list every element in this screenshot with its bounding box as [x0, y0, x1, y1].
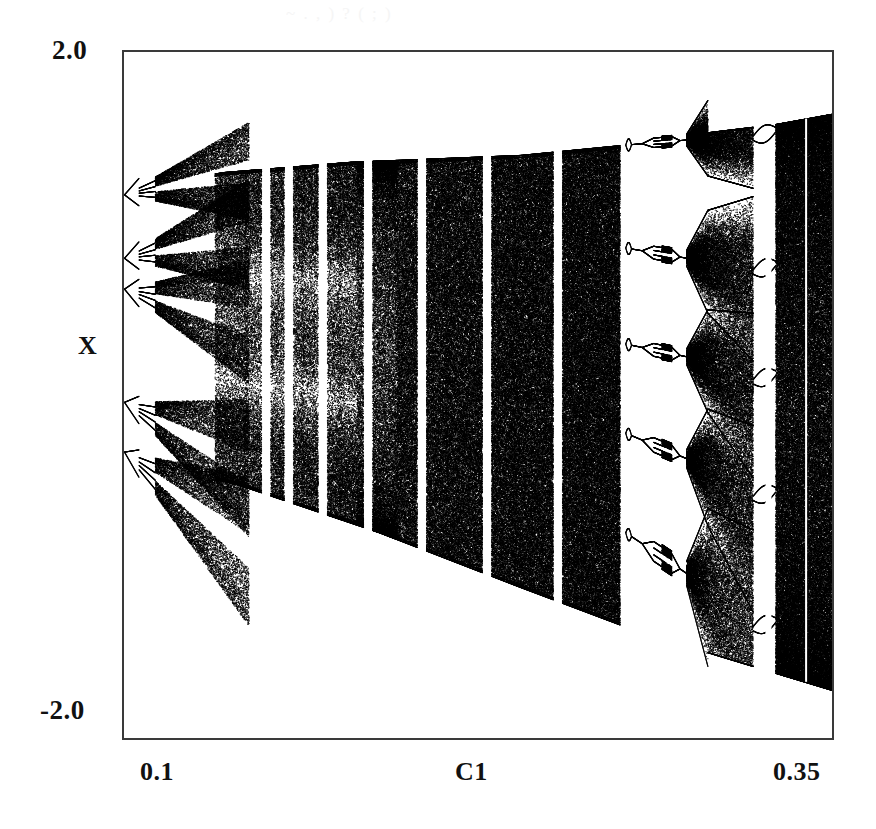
- x-axis-tick-right: 0.35: [773, 757, 821, 787]
- y-axis-tick-top: 2.0: [52, 35, 87, 66]
- bifurcation-plot-canvas: [124, 52, 832, 738]
- scan-artifact-text: ~ . , ) ? ( ; ): [286, 4, 482, 26]
- x-axis-title: C1: [455, 757, 488, 787]
- y-axis-title: X: [78, 331, 97, 361]
- y-axis-tick-bottom: -2.0: [40, 695, 85, 726]
- x-axis-tick-left: 0.1: [140, 757, 174, 787]
- bifurcation-figure: ~ . , ) ? ( ; ) 2.0 -2.0 X 0.1 C1 0.35: [0, 0, 876, 829]
- plot-frame: [122, 50, 834, 740]
